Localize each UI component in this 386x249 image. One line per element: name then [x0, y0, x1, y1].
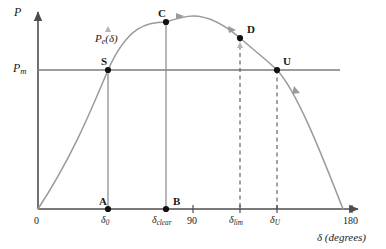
xtick-delta-lim: δlim — [229, 215, 243, 227]
dot-point-b — [163, 206, 169, 212]
xtick-delta-clear: δclear — [152, 215, 171, 227]
xtick-delta-u-sub: U — [275, 219, 280, 227]
power-angle-curve-figure: P Pm Pe(δ) S C D U A B 0 δ0 δclear 90 δl… — [0, 0, 386, 249]
curve-label: Pe(δ) — [95, 33, 118, 46]
curve-label-main: P — [95, 32, 102, 44]
curve-direction-arrows — [176, 13, 300, 94]
point-b-label: B — [173, 196, 180, 207]
xtick-one-eighty: 180 — [343, 216, 358, 226]
plot-canvas — [0, 0, 386, 249]
point-s-label: S — [101, 56, 107, 67]
x-axis-caption: δ (degrees) — [317, 232, 366, 243]
point-c-label: C — [158, 8, 166, 19]
curve-label-arg: (δ) — [105, 32, 117, 44]
xtick-delta-u: δU — [270, 215, 280, 227]
pm-axis-label-sub: m — [20, 66, 26, 76]
xtick-delta-clear-sub: clear — [157, 219, 172, 227]
vline-arrow-marks — [105, 26, 243, 211]
xtick-delta-lim-sub: lim — [234, 219, 243, 227]
point-d-label: D — [247, 24, 255, 35]
point-a-label: A — [99, 196, 107, 207]
y-axis-label: P — [14, 6, 21, 18]
dot-point-u — [274, 67, 280, 73]
xtick-ninety: 90 — [187, 216, 197, 226]
dot-point-s — [105, 67, 111, 73]
dot-point-c — [163, 19, 169, 25]
power-angle-curve — [38, 16, 343, 209]
dot-point-d — [237, 35, 243, 41]
point-u-label: U — [283, 56, 291, 67]
xtick-delta0-sub: 0 — [106, 219, 110, 227]
xtick-origin: 0 — [34, 216, 39, 226]
data-point-dots — [105, 19, 280, 212]
xtick-delta0: δ0 — [101, 215, 109, 227]
pm-axis-label: Pm — [13, 62, 27, 76]
